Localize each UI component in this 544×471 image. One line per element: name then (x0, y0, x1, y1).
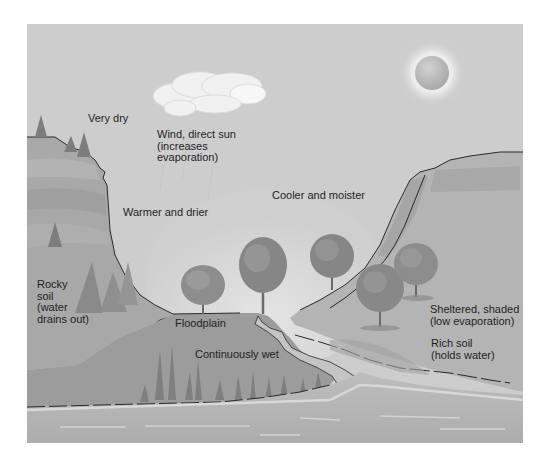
label-cooler-moister: Cooler and moister (272, 190, 365, 202)
label-rocky-soil: Rocky soil (water drains out) (37, 279, 89, 325)
label-sheltered-shaded: Sheltered, shaded (low evaporation) (430, 304, 519, 327)
sun-icon (399, 40, 465, 106)
label-floodplain: Floodplain (175, 318, 226, 330)
label-rich-soil: Rich soil (holds water) (431, 338, 495, 361)
label-wind-direct-sun: Wind, direct sun (increases evaporation) (157, 129, 236, 164)
label-very-dry: Very dry (88, 113, 128, 125)
label-warmer-drier: Warmer and drier (123, 207, 208, 219)
label-continuously-wet: Continuously wet (195, 349, 279, 361)
landscape-scene (0, 0, 544, 471)
